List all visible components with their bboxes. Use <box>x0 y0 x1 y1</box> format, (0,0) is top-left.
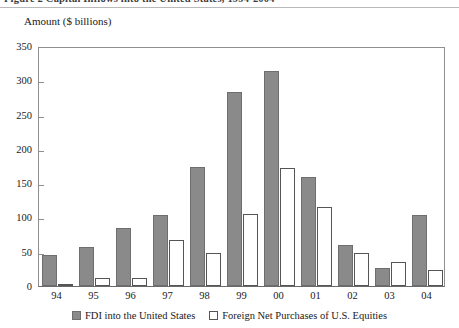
bar-group <box>116 48 147 286</box>
x-axis-label: 01 <box>297 290 334 301</box>
bar-fdi-94 <box>42 255 57 286</box>
bar-equities-03 <box>391 262 406 286</box>
x-axis-label: 99 <box>223 290 260 301</box>
legend-label: Foreign Net Purchases of U.S. Equities <box>222 310 387 321</box>
y-axis-tick-label: 350 <box>16 41 32 52</box>
x-axis-label: 00 <box>260 290 297 301</box>
bar-fdi-03 <box>375 268 390 287</box>
bar-group <box>42 48 73 286</box>
x-axis-label: 96 <box>112 290 149 301</box>
bar-fdi-97 <box>153 215 168 286</box>
bar-equities-99 <box>243 214 258 286</box>
bar-group <box>264 48 295 286</box>
y-axis-tick-label: 200 <box>16 144 32 155</box>
bar-equities-97 <box>169 240 184 286</box>
y-axis-tick-label: 150 <box>16 178 32 189</box>
x-axis-label: 98 <box>186 290 223 301</box>
bar-equities-96 <box>132 278 147 286</box>
legend-item-equities: Foreign Net Purchases of U.S. Equities <box>209 310 387 321</box>
x-axis-label: 95 <box>75 290 112 301</box>
bar-equities-98 <box>206 253 221 286</box>
y-axis-tick-label: 300 <box>16 75 32 86</box>
x-axis-label: 03 <box>371 290 408 301</box>
x-axis-labels: 9495969798990001020304 <box>38 290 445 306</box>
y-axis-title: Amount ($ billions) <box>24 15 111 27</box>
caption-divider <box>0 7 459 8</box>
bar-group <box>412 48 443 286</box>
x-axis-label: 04 <box>408 290 445 301</box>
bar-fdi-02 <box>338 245 353 286</box>
bar-fdi-96 <box>116 228 131 286</box>
bar-group <box>153 48 184 286</box>
bar-fdi-95 <box>79 247 94 286</box>
figure-caption: Figure 2 Capital Inflows into the United… <box>0 0 459 8</box>
bar-equities-94 <box>58 284 73 286</box>
y-axis-tick-label: 50 <box>22 247 33 258</box>
chart-legend: FDI into the United StatesForeign Net Pu… <box>0 310 459 321</box>
bar-fdi-01 <box>301 177 316 286</box>
y-axis-tick-label: 250 <box>16 110 32 121</box>
bar-group <box>375 48 406 286</box>
y-axis-tick-label: 100 <box>16 212 32 223</box>
bar-equities-00 <box>280 168 295 286</box>
bar-group <box>190 48 221 286</box>
legend-item-fdi: FDI into the United States <box>72 310 195 321</box>
bar-equities-95 <box>95 278 110 286</box>
x-axis-label: 02 <box>334 290 371 301</box>
bar-group <box>79 48 110 286</box>
bar-group <box>227 48 258 286</box>
figure-caption-text: Figure 2 Capital Inflows into the United… <box>4 0 275 4</box>
y-axis-tick-label: 0 <box>27 281 32 292</box>
legend-swatch-fdi <box>72 311 81 320</box>
bar-equities-04 <box>428 270 443 286</box>
plot-area: 050100150200250300350 <box>38 47 445 287</box>
bar-fdi-98 <box>190 167 205 286</box>
bar-equities-02 <box>354 253 369 286</box>
bars-layer <box>39 48 444 286</box>
legend-label: FDI into the United States <box>85 310 195 321</box>
x-axis-label: 94 <box>38 290 75 301</box>
legend-swatch-equities <box>209 311 218 320</box>
bar-fdi-04 <box>412 215 427 286</box>
bar-group <box>338 48 369 286</box>
bar-fdi-99 <box>227 92 242 286</box>
x-axis-label: 97 <box>149 290 186 301</box>
bar-fdi-00 <box>264 71 279 286</box>
bar-group <box>301 48 332 286</box>
bar-equities-01 <box>317 207 332 286</box>
